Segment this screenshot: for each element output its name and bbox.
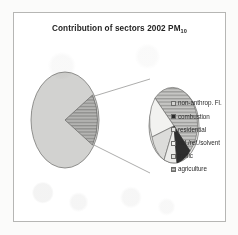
legend-label-non-anthrop: non-anthrop. Fl. [178,100,222,106]
legend-swatch-residential [171,127,176,132]
legend-swatch-ind-ref-solvent [171,141,176,146]
legend-label-traffic: traffic [178,153,193,159]
legend-item-non-anthrop[interactable]: non-anthrop. Fl. [171,97,229,110]
legend-swatch-combustion [171,114,176,119]
legend-label-ind-ref-solvent: ind./ref./solvent [178,140,220,146]
legend-item-residential[interactable]: residential [171,123,229,136]
main-pie [31,72,99,168]
legend-swatch-non-anthrop [171,101,176,106]
legend-item-ind-ref-solvent[interactable]: ind./ref./solvent [171,137,229,150]
legend-swatch-traffic [171,154,176,159]
legend-item-traffic[interactable]: traffic [171,150,229,163]
legend-label-combustion: combustion [178,114,210,120]
legend-swatch-agriculture [171,167,176,172]
legend-label-residential: residential [178,127,206,133]
legend-item-agriculture[interactable]: agriculture [171,163,229,176]
legend-label-agriculture: agriculture [178,166,207,172]
legend-item-combustion[interactable]: combustion [171,110,229,123]
legend: non-anthrop. Fl. combustion residential … [171,97,229,176]
figure-frame: Contribution of sectors 2002 PM10 [13,12,226,222]
